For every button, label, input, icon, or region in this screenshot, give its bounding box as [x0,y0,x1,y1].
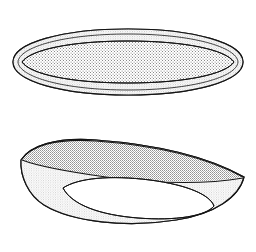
specimen-figure-canvas [0,0,256,252]
